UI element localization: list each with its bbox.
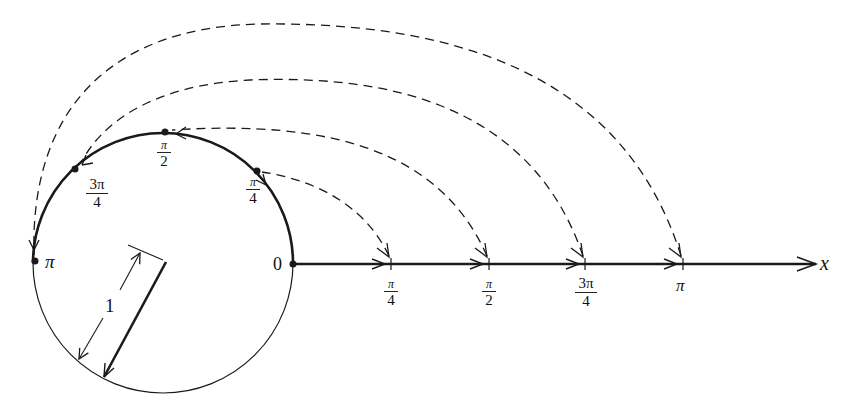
- x-axis-label: x: [820, 253, 829, 273]
- origin-label: 0: [273, 255, 282, 273]
- circle-label-pi-over-4: π4: [246, 176, 260, 206]
- dimension-extension-line: [128, 245, 163, 260]
- circle-label-pi: π: [45, 252, 55, 271]
- mapping-arc-pi-over-2: [172, 128, 487, 256]
- radius-label: 1: [105, 296, 115, 315]
- diagram-canvas: [0, 0, 855, 409]
- dimension-line-upper: [120, 253, 140, 290]
- circle-point-pi: [32, 258, 39, 265]
- dash-arrow-pi-over-4-icon: [377, 243, 389, 257]
- axis-label-pi: π: [676, 277, 685, 294]
- mapping-arc-pi-over-4: [262, 172, 389, 256]
- circle-point-three-pi-over-4: [72, 166, 79, 173]
- axis-label-pi-over-4: π4: [384, 278, 398, 308]
- radius-segment: [104, 262, 166, 377]
- circle-point-pi-over-4: [254, 168, 261, 175]
- circle-label-pi-over-2: π2: [157, 139, 171, 169]
- axis-label-pi-over-2: π2: [482, 278, 496, 308]
- circle-label-three-pi-over-4: 3π4: [86, 177, 108, 210]
- mapping-arc-pi: [34, 24, 681, 256]
- dimension-line-lower: [79, 318, 103, 359]
- axis-label-three-pi-over-4: 3π4: [575, 276, 597, 309]
- circle-point-pi-over-2: [162, 129, 169, 136]
- wrapping-function-diagram: 1 0 x π π4 π2 3π4 π4 π2 3π4 π: [0, 0, 855, 409]
- dash-arrow-pi-over-2-icon: [475, 243, 487, 257]
